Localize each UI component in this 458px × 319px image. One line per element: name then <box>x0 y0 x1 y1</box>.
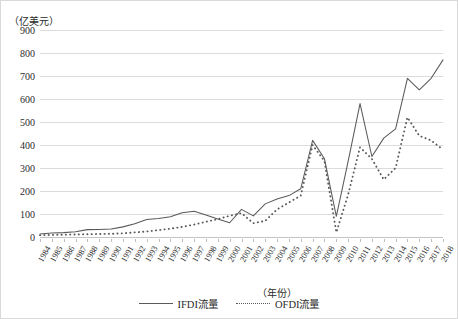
x-axis-tick-mark <box>443 239 444 242</box>
x-axis-tick-mark <box>301 239 302 242</box>
y-axis-tick-300: 300 <box>20 163 35 174</box>
legend-item-ofdi: OFDI流量 <box>236 296 320 311</box>
series-lines <box>40 30 443 237</box>
x-axis-tick-mark <box>277 239 278 242</box>
x-axis-tick-mark <box>170 239 171 242</box>
plot-area: 0100200300400500600700800900 <box>40 30 443 237</box>
x-axis-tick-mark <box>206 239 207 242</box>
chart-container: （亿美元） 0100200300400500600700800900 19841… <box>0 0 458 319</box>
x-axis-tick-mark <box>99 239 100 242</box>
legend-swatch-solid-icon <box>139 303 173 304</box>
y-axis-tick-100: 100 <box>20 209 35 220</box>
y-axis-tick-900: 900 <box>20 25 35 36</box>
x-axis-tick-mark <box>313 239 314 242</box>
series-line-ifdi <box>40 60 443 234</box>
x-axis-tick-mark <box>324 239 325 242</box>
y-axis-tick-800: 800 <box>20 48 35 59</box>
x-axis-tick-mark <box>289 239 290 242</box>
y-axis-tick-400: 400 <box>20 140 35 151</box>
y-axis-tick-200: 200 <box>20 186 35 197</box>
x-axis-tick-mark <box>52 239 53 242</box>
legend-label-ifdi: IFDI流量 <box>178 296 218 311</box>
x-axis-tick-mark <box>265 239 266 242</box>
x-axis-tick-mark <box>64 239 65 242</box>
x-axis-tick-mark <box>218 239 219 242</box>
x-axis-tick-mark <box>194 239 195 242</box>
x-axis-tick-mark <box>182 239 183 242</box>
x-axis-tick-mark <box>384 239 385 242</box>
x-axis-tick-mark <box>348 239 349 242</box>
x-axis-tick-mark <box>242 239 243 242</box>
legend-swatch-dotted-icon <box>236 303 270 304</box>
x-axis-tick-mark <box>159 239 160 242</box>
chart-legend: IFDI流量 OFDI流量 <box>1 296 457 311</box>
y-axis-tick-0: 0 <box>30 232 35 243</box>
x-axis-tick-mark <box>396 239 397 242</box>
legend-item-ifdi: IFDI流量 <box>139 296 218 311</box>
series-line-ofdi <box>40 117 443 235</box>
x-axis-tick-mark <box>147 239 148 242</box>
y-axis-tick-500: 500 <box>20 117 35 128</box>
gridline-0: 0 <box>40 237 443 238</box>
x-axis-tick-mark <box>253 239 254 242</box>
x-axis-tick-mark <box>135 239 136 242</box>
x-axis-tick-mark <box>336 239 337 242</box>
x-axis-tick-mark <box>111 239 112 242</box>
x-axis-tick-mark <box>87 239 88 242</box>
x-axis-tick-mark <box>123 239 124 242</box>
x-axis-tick-mark <box>76 239 77 242</box>
x-axis-tick-mark <box>40 239 41 242</box>
y-axis-tick-700: 700 <box>20 71 35 82</box>
x-axis-tick-mark <box>230 239 231 242</box>
x-axis-tick-mark <box>419 239 420 242</box>
x-axis-labels: 1984198519861987198819891990199119921993… <box>40 239 443 285</box>
y-axis-tick-600: 600 <box>20 94 35 105</box>
x-axis-tick-mark <box>431 239 432 242</box>
x-axis-tick-mark <box>407 239 408 242</box>
x-axis-tick-mark <box>372 239 373 242</box>
legend-label-ofdi: OFDI流量 <box>275 296 320 311</box>
x-axis-tick-mark <box>360 239 361 242</box>
